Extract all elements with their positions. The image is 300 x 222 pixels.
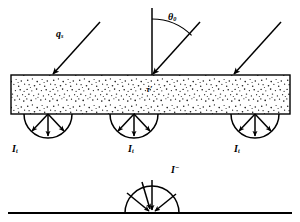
diagram-canvas: [0, 0, 300, 222]
incident-ray-group: [53, 22, 281, 74]
transmitted-lobe-center: [110, 114, 158, 138]
zenith-angle-label: θ0: [168, 12, 176, 23]
transmitted-lobe-left: [24, 114, 72, 138]
transmitted-lobe-right: [231, 114, 279, 138]
transmitted-intensity-label-right: It: [234, 144, 240, 155]
figure-diagram: qs θ0 τ′ It It It I−: [0, 0, 300, 222]
downward-intensity-label: I−: [171, 165, 179, 175]
optical-depth-label: τ′: [146, 85, 153, 94]
incident-ray-right: [234, 22, 281, 74]
slab-body: [11, 75, 290, 114]
scattering-slab: [11, 75, 290, 114]
incident-flux-label: qs: [56, 29, 63, 40]
downward-intensity-lobe: [125, 180, 179, 213]
transmitted-intensity-label-left: It: [12, 144, 18, 155]
incident-ray-center: [153, 22, 200, 74]
transmitted-intensity-label-center: It: [128, 144, 134, 155]
